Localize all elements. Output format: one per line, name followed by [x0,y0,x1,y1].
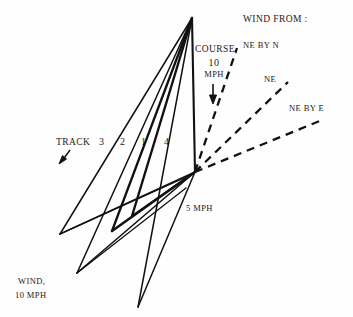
course-arrow-head [210,95,217,104]
track-number-2: 2 [120,136,125,148]
track-label: TRACK [56,137,90,148]
wind-label: WIND, [18,277,45,287]
track-line-1 [112,18,192,231]
track-line-2 [77,18,192,273]
ray-ne [195,82,288,172]
track-line-inner [132,18,192,216]
wind-direction-ne-by-n-label: NE BY N [243,41,279,51]
course-label: COURSE, [195,44,238,55]
resultant-speed-label: 5 MPH [186,204,213,214]
wind-speed-label: 10 MPH [15,291,46,301]
track-number-1: 1 [141,136,146,148]
vector-drawing-canvas [0,0,353,317]
course-line [192,18,195,172]
track-number-3: 3 [99,136,104,148]
wind-direction-ne-label: NE [264,75,276,85]
wind-triangle-diagram: WIND FROM : COURSE, 10 MPH NE BY N NE NE… [0,0,353,317]
course-speed-value: 10 [203,57,225,69]
wind-direction-ne-by-e-label: NE BY E [289,104,324,114]
course-and-track-lines [60,18,195,307]
ray-ne-by-e [195,120,322,172]
course-speed-unit: MPH [200,70,228,80]
wind-vector-2 [77,172,195,273]
track-number-4: 4 [164,136,169,148]
wind-from-header: WIND FROM : [243,14,308,25]
